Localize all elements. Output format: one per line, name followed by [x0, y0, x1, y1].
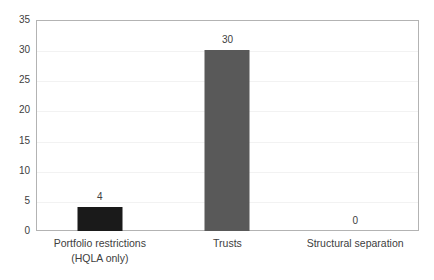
bar-value-label: 4: [97, 192, 103, 202]
y-axis-tick-label: 25: [0, 75, 30, 85]
y-axis-tick-label: 15: [0, 136, 30, 146]
x-axis-tick-label: Portfolio restrictions(HQLA only): [36, 236, 164, 266]
x-axis-tick-label-line1: Trusts: [213, 237, 242, 249]
x-axis-tick-label-line2: (HQLA only): [36, 251, 164, 266]
bar-slot: 4: [36, 20, 164, 231]
bar-slot: 30: [164, 20, 292, 231]
y-axis-tick-label: 35: [0, 15, 30, 25]
x-axis: Portfolio restrictions(HQLA only)TrustsS…: [36, 236, 419, 276]
y-axis-tick-label: 10: [0, 166, 30, 176]
y-axis-tick-label: 20: [0, 105, 30, 115]
bar-value-label: 0: [352, 216, 358, 226]
bars-layer: 4300: [36, 20, 419, 231]
bar[interactable]: [77, 207, 122, 231]
x-axis-tick-label: Trusts: [164, 236, 292, 251]
bar-value-label: 30: [222, 35, 233, 45]
y-axis-tick-label: 0: [0, 226, 30, 236]
y-axis-tick-label: 5: [0, 196, 30, 206]
x-axis-tick-label-line1: Structural separation: [307, 237, 404, 249]
x-axis-tick-label-line1: Portfolio restrictions: [54, 237, 146, 249]
bar-chart: 35302520151050 4300 Portfolio restrictio…: [0, 0, 434, 280]
y-axis-tick-label: 30: [0, 45, 30, 55]
bar[interactable]: [205, 50, 250, 231]
x-axis-tick-label: Structural separation: [291, 236, 419, 251]
bar-slot: 0: [291, 20, 419, 231]
y-axis: 35302520151050: [0, 20, 30, 231]
